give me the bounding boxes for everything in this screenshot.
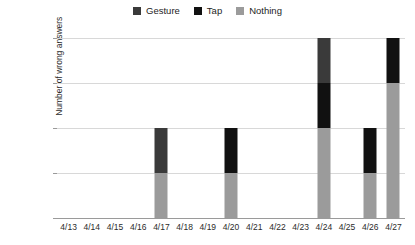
x-tick-label-4-26: 4/26 (359, 223, 382, 232)
bar-slot-4-15 (103, 38, 126, 218)
x-tick-label-4-21: 4/21 (243, 223, 266, 232)
x-tick-label-4-15: 4/15 (103, 223, 126, 232)
x-tick-label-4-20: 4/20 (219, 223, 242, 232)
x-tick-label-4-18: 4/18 (173, 223, 196, 232)
x-tick-label-4-25: 4/25 (335, 223, 358, 232)
bar-slot-4-18 (173, 38, 196, 218)
bar-slot-4-23 (289, 38, 312, 218)
bar-segment-tap (225, 128, 238, 173)
bar-segment-nothing (364, 173, 377, 218)
bar-segment-nothing (317, 128, 330, 218)
x-tick-label-4-13: 4/13 (57, 223, 80, 232)
legend-swatch-nothing (236, 7, 244, 15)
legend-label-gesture: Gesture (146, 6, 180, 16)
bar-slot-4-14 (80, 38, 103, 218)
bar-slot-4-22 (266, 38, 289, 218)
bar-stack-4-17[interactable] (155, 128, 168, 218)
bar-segment-tap (387, 38, 400, 83)
legend-swatch-tap (194, 7, 202, 15)
x-tick-label-4-27: 4/27 (382, 223, 405, 232)
bar-stack-4-20[interactable] (225, 128, 238, 218)
bar-slot-4-20 (219, 38, 242, 218)
legend-label-tap: Tap (207, 6, 222, 16)
bar-slot-4-24 (312, 38, 335, 218)
bar-segment-nothing (387, 83, 400, 218)
bar-stack-4-26[interactable] (364, 128, 377, 218)
legend-item-gesture[interactable]: Gesture (133, 6, 180, 16)
bar-segment-tap (364, 128, 377, 173)
bars-layer (57, 38, 405, 218)
x-tick-label-4-19: 4/19 (196, 223, 219, 232)
legend-item-nothing[interactable]: Nothing (236, 6, 282, 16)
bar-segment-gesture (317, 38, 330, 83)
legend-label-nothing: Nothing (249, 6, 282, 16)
legend-item-tap[interactable]: Tap (194, 6, 222, 16)
x-tick-label-4-14: 4/14 (80, 223, 103, 232)
chart-container: Gesture Tap Nothing Number of wrong answ… (0, 0, 415, 245)
x-tick-label-4-24: 4/24 (312, 223, 335, 232)
x-tick-label-4-17: 4/17 (150, 223, 173, 232)
legend-swatch-gesture (133, 7, 141, 15)
bar-segment-nothing (225, 173, 238, 218)
bar-slot-4-27 (382, 38, 405, 218)
x-tick-label-4-23: 4/23 (289, 223, 312, 232)
plot-area (57, 38, 405, 218)
bar-segment-gesture (155, 128, 168, 173)
bar-slot-4-26 (359, 38, 382, 218)
bar-slot-4-16 (127, 38, 150, 218)
bar-stack-4-24[interactable] (317, 38, 330, 218)
bar-segment-tap (317, 83, 330, 128)
bar-slot-4-17 (150, 38, 173, 218)
gridline-0-axis (57, 218, 405, 219)
bar-slot-4-13 (57, 38, 80, 218)
bar-slot-4-19 (196, 38, 219, 218)
bar-stack-4-27[interactable] (387, 38, 400, 218)
bar-slot-4-21 (243, 38, 266, 218)
bar-slot-4-25 (335, 38, 358, 218)
x-tick-label-4-22: 4/22 (266, 223, 289, 232)
x-axis-labels: 4/13 4/14 4/15 4/16 4/17 4/18 4/19 4/20 … (57, 223, 405, 232)
bar-segment-nothing (155, 173, 168, 218)
x-tick-label-4-16: 4/16 (127, 223, 150, 232)
